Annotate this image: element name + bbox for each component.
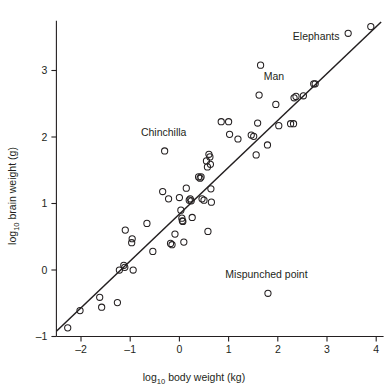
y-tick-label: 2: [42, 131, 48, 143]
data-point: [226, 131, 232, 137]
y-tick-label: –1: [36, 330, 48, 342]
data-point: [160, 188, 166, 194]
x-tick-label: 1: [226, 343, 232, 355]
x-tick-label: 3: [324, 343, 330, 355]
data-point: [226, 119, 232, 125]
data-point: [99, 304, 105, 310]
scatter-chart-figure: –2–101234 –10123 ElephantsManChinchillaM…: [0, 0, 388, 392]
data-point: [130, 267, 136, 273]
data-point: [368, 24, 374, 30]
axes-group: [56, 21, 383, 337]
data-point: [345, 30, 351, 36]
y-tick-label: 3: [42, 64, 48, 76]
x-tick-label: 2: [275, 343, 281, 355]
data-point: [189, 214, 195, 220]
data-point: [114, 299, 120, 305]
data-point: [265, 290, 271, 296]
data-point: [201, 197, 207, 203]
data-point: [264, 142, 270, 148]
regression-line: [56, 22, 381, 331]
y-ticks-group: –10123: [36, 64, 57, 342]
data-point: [181, 239, 187, 245]
data-point: [276, 123, 282, 129]
data-point: [253, 152, 259, 158]
data-point: [122, 227, 128, 233]
data-point: [208, 186, 214, 192]
point-annotation-label: Man: [264, 70, 285, 82]
data-point: [273, 101, 279, 107]
x-ticks-group: –2–101234: [75, 337, 379, 355]
chart-canvas: –2–101234 –10123 ElephantsManChinchillaM…: [0, 0, 388, 392]
y-tick-label: 0: [42, 264, 48, 276]
data-point: [97, 294, 103, 300]
x-axis-title: log10 body weight (kg): [143, 371, 245, 386]
data-point: [150, 248, 156, 254]
y-tick-label: 1: [42, 197, 48, 209]
data-point: [169, 242, 175, 248]
data-point: [183, 185, 189, 191]
data-point: [235, 136, 241, 142]
data-point: [256, 92, 262, 98]
fit-line-group: [56, 22, 381, 331]
data-point: [205, 228, 211, 234]
point-annotation-label: Chinchilla: [141, 126, 187, 138]
point-annotation-label: Mispunched point: [225, 268, 307, 280]
x-tick-label: –1: [124, 343, 136, 355]
point-annotation-label: Elephants: [293, 30, 340, 42]
data-point: [176, 194, 182, 200]
data-point: [172, 231, 178, 237]
data-point: [165, 196, 171, 202]
data-point: [65, 325, 71, 331]
data-point: [257, 62, 263, 68]
x-tick-label: –2: [75, 343, 87, 355]
data-point: [208, 199, 214, 205]
data-point: [218, 119, 224, 125]
data-point: [129, 240, 135, 246]
x-tick-label: 0: [176, 343, 182, 355]
data-points-group: [65, 24, 374, 331]
data-point: [162, 148, 168, 154]
data-point: [293, 93, 299, 99]
data-point: [255, 120, 261, 126]
data-point: [203, 158, 209, 164]
data-point: [144, 220, 150, 226]
x-tick-label: 4: [373, 343, 379, 355]
y-axis-title: log10 brain weight (g): [6, 147, 21, 245]
